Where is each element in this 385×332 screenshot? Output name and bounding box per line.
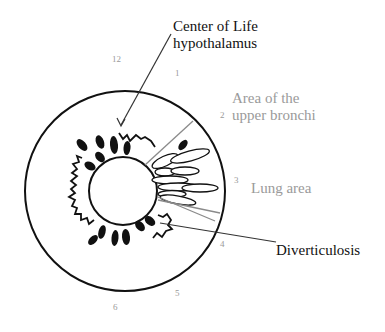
label-lung-area: Lung area	[251, 180, 311, 197]
inner-circle	[89, 157, 157, 225]
pointer-center-of-life	[121, 34, 171, 125]
clock-number-1: 1	[175, 68, 180, 78]
label-upper-bronchi: Area of the upper bronchi	[232, 90, 316, 123]
label-center-of-life: Center of Life hypothalamus	[173, 18, 258, 51]
clock-number-6: 6	[113, 302, 118, 312]
clock-number-12: 12	[112, 54, 121, 64]
clock-number-2: 2	[220, 110, 225, 120]
label-center-of-life-line1: Center of Life	[173, 18, 258, 35]
clock-number-5: 5	[175, 288, 180, 298]
clock-number-3: 3	[234, 175, 239, 185]
label-upper-bronchi-line2: upper bronchi	[232, 107, 316, 124]
label-center-of-life-line2: hypothalamus	[173, 35, 258, 52]
label-diverticulosis: Diverticulosis	[276, 242, 360, 259]
clock-number-4: 4	[220, 239, 225, 249]
label-upper-bronchi-line1: Area of the	[232, 90, 316, 107]
